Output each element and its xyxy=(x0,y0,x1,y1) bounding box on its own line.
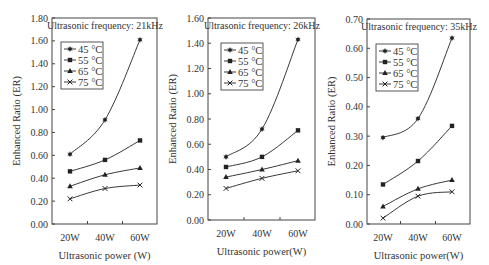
y-tick-label: 1.80 xyxy=(31,13,49,24)
y-tick-label: 1.40 xyxy=(187,38,205,49)
square-marker xyxy=(383,60,387,64)
legend: 45 °C55 °C65 °C75 °C xyxy=(221,43,263,90)
square-marker xyxy=(138,138,142,142)
x-tick-label: 20W xyxy=(60,232,80,243)
triangle-marker xyxy=(295,158,301,163)
chart-panel-3: 0.000.100.200.300.400.500.600.7020W40W60… xyxy=(326,14,478,263)
y-tick-label: 0.10 xyxy=(346,189,364,200)
y-tick-label: 0.00 xyxy=(31,219,49,230)
series-line xyxy=(70,168,140,186)
x-tick-label: 60W xyxy=(288,228,308,239)
triangle-marker xyxy=(380,203,386,208)
y-tick-label: 0.40 xyxy=(187,164,205,175)
y-tick-label: 0.40 xyxy=(31,173,49,184)
y-tick-label: 1.60 xyxy=(31,35,49,46)
triangle-marker xyxy=(137,165,143,170)
y-axis-title: Enhanced Ratio (ER) xyxy=(11,76,23,166)
legend-label: 75 °C xyxy=(78,77,102,88)
panel-title: Ultrasonic frequency: 21kHz xyxy=(47,20,164,31)
x-tick-label: 40W xyxy=(252,228,272,239)
x-axis-title: Ultrasonic power(W) xyxy=(217,246,307,258)
series-65c xyxy=(380,177,455,208)
series-line xyxy=(383,180,452,206)
panel-title: Ultrasonic frequency: 35kHz xyxy=(361,21,478,32)
legend-label: 45 °C xyxy=(78,44,102,55)
x-tick-label: 40W xyxy=(408,232,428,243)
x-marker xyxy=(224,186,229,191)
square-marker xyxy=(68,169,72,173)
y-tick-label: 0.20 xyxy=(187,189,205,200)
legend: 45 °C55 °C65 °C75 °C xyxy=(61,42,103,89)
y-tick-label: 0.60 xyxy=(187,139,205,150)
legend-label: 65 °C xyxy=(393,68,417,79)
legend-label: 45 °C xyxy=(238,45,262,56)
y-tick-label: 0.60 xyxy=(31,150,49,161)
x-marker xyxy=(68,196,73,201)
legend-label: 55 °C xyxy=(78,55,102,66)
square-marker xyxy=(450,124,454,128)
chart-svg: 0.000.200.400.600.801.001.201.401.601.80… xyxy=(0,0,489,265)
series-75c xyxy=(68,183,143,202)
square-marker xyxy=(381,182,385,186)
x-axis-title: Ultrasonic power (W) xyxy=(58,250,151,262)
series-line xyxy=(226,130,298,167)
x-tick-label: 40W xyxy=(95,232,115,243)
y-tick-label: 0.20 xyxy=(346,160,364,171)
y-tick-label: 0.50 xyxy=(346,72,364,83)
series-65c xyxy=(223,158,301,179)
y-tick-label: 1.00 xyxy=(31,104,49,115)
y-tick-label: 1.00 xyxy=(187,88,205,99)
y-axis-title: Enhanced Ratio (ER) xyxy=(167,74,179,164)
legend-label: 65 °C xyxy=(238,67,262,78)
series-line xyxy=(70,185,140,199)
x-tick-label: 20W xyxy=(373,232,393,243)
series-55c xyxy=(68,138,142,173)
y-tick-label: 0.60 xyxy=(346,43,364,54)
series-line xyxy=(226,171,298,189)
y-tick-label: 1.20 xyxy=(31,81,49,92)
panel-title: Ultrasonic frequency: 26kHz xyxy=(204,20,321,31)
chart-panel-2: 0.000.200.400.600.801.001.201.401.6020W4… xyxy=(167,13,321,259)
triangle-marker xyxy=(449,177,455,182)
square-marker xyxy=(224,165,228,169)
legend-label: 75 °C xyxy=(393,79,417,90)
square-marker xyxy=(68,58,72,62)
square-marker xyxy=(296,128,300,132)
chart-panel-1: 0.000.200.400.600.801.001.201.401.601.80… xyxy=(11,13,164,263)
x-tick-label: 20W xyxy=(216,228,236,239)
y-tick-label: 0.80 xyxy=(31,127,49,138)
legend-label: 45 °C xyxy=(393,46,417,57)
square-marker xyxy=(228,59,232,63)
y-tick-label: 0.40 xyxy=(346,101,364,112)
square-marker xyxy=(260,155,264,159)
square-marker xyxy=(416,159,420,163)
square-marker xyxy=(103,158,107,162)
x-tick-label: 60W xyxy=(442,232,462,243)
y-tick-label: 0.80 xyxy=(187,114,205,125)
y-tick-label: 0.00 xyxy=(346,219,364,230)
y-tick-label: 1.40 xyxy=(31,58,49,69)
legend-label: 55 °C xyxy=(238,56,262,67)
series-line xyxy=(70,140,140,171)
y-tick-label: 0.20 xyxy=(31,196,49,207)
x-marker xyxy=(416,194,421,199)
series-75c xyxy=(224,168,301,190)
x-marker xyxy=(381,216,386,221)
y-axis-title: Enhanced Ratio (ER) xyxy=(326,76,338,166)
series-75c xyxy=(381,189,455,220)
legend-label: 75 °C xyxy=(238,78,262,89)
legend-label: 65 °C xyxy=(78,66,102,77)
y-tick-label: 0.30 xyxy=(346,131,364,142)
chart-figure: 0.000.200.400.600.801.001.201.401.601.80… xyxy=(0,0,489,265)
series-55c xyxy=(381,124,454,187)
y-tick-label: 0.00 xyxy=(187,215,205,226)
x-axis-title: Ultrasonic power(W) xyxy=(374,250,464,262)
y-tick-label: 1.20 xyxy=(187,63,205,74)
x-tick-label: 60W xyxy=(130,232,150,243)
legend-label: 55 °C xyxy=(393,57,417,68)
y-tick-label: 1.60 xyxy=(187,13,205,24)
legend: 45 °C55 °C65 °C75 °C xyxy=(376,44,418,91)
